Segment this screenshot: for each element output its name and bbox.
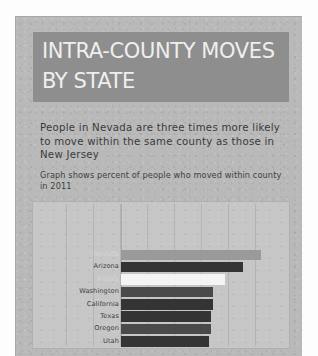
bar-label: Nevada	[39, 250, 119, 259]
bar-row[interactable]: Nevada	[33, 249, 289, 261]
bar-row[interactable]: California	[33, 299, 289, 311]
bar[interactable]	[121, 274, 225, 285]
deck: People in Nevada are three times more li…	[40, 121, 286, 192]
bar[interactable]	[121, 250, 261, 261]
bar-label: Arizona	[39, 262, 119, 271]
infographic-card: INTRA-COUNTY MOVES BY STATE People in Ne…	[15, 16, 302, 356]
bar[interactable]	[121, 287, 213, 298]
bar[interactable]	[121, 262, 243, 273]
deck-caption: Graph shows percent of people who moved …	[40, 170, 286, 192]
page-title-line-2: BY STATE	[42, 66, 289, 96]
bar-chart-panel: NevadaArizonaAlaskaWashingtonCaliforniaT…	[32, 201, 290, 349]
bar-row[interactable]: Utah	[33, 336, 289, 348]
bar-label: Utah	[39, 337, 119, 346]
bar-label: Oregon	[39, 324, 119, 333]
bar-label: Washington	[39, 287, 119, 296]
bar[interactable]	[121, 324, 211, 335]
plot-area: NevadaArizonaAlaskaWashingtonCaliforniaT…	[33, 202, 289, 348]
bar-label: California	[39, 300, 119, 309]
title-banner: INTRA-COUNTY MOVES BY STATE	[33, 32, 289, 102]
bar-row[interactable]: Alaska	[33, 274, 289, 286]
infographic-page: INTRA-COUNTY MOVES BY STATE People in Ne…	[0, 0, 318, 356]
bar-rows: NevadaArizonaAlaskaWashingtonCaliforniaT…	[33, 249, 289, 348]
bar-label: Texas	[39, 312, 119, 321]
bar-row[interactable]: Washington	[33, 286, 289, 298]
deck-headline: People in Nevada are three times more li…	[40, 121, 286, 162]
bar-row[interactable]: Texas	[33, 311, 289, 323]
bar[interactable]	[121, 299, 213, 310]
bar-label: Alaska	[39, 275, 119, 284]
bar[interactable]	[121, 311, 211, 322]
bar-row[interactable]: Oregon	[33, 323, 289, 335]
bar-row[interactable]: Arizona	[33, 261, 289, 273]
bar[interactable]	[121, 336, 209, 347]
page-title-line-1: INTRA-COUNTY MOVES	[42, 36, 289, 66]
